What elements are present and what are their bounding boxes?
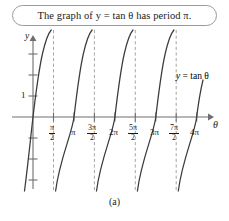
fraction-3pi-over-2: 3π 2 (87, 124, 97, 142)
x-tick-label-pi-over-2: π 2 (49, 124, 55, 142)
y-tick-label-1: 1 (21, 91, 26, 100)
tan-branch-3pi (137, 30, 174, 191)
fraction-denominator: 2 (87, 134, 97, 143)
asymptote-group (54, 30, 177, 191)
plot-area: y θ 1 π 2 π 3π 2 2π 5π 2 3π (0, 28, 229, 193)
curve-function-label: y = tan θ (176, 71, 209, 81)
axes-group (12, 40, 209, 189)
function-label-expression: tan θ (190, 71, 209, 81)
plot-svg (0, 28, 229, 193)
tan-branch-pi (56, 30, 93, 191)
fraction-5pi-over-2: 5π 2 (128, 124, 138, 142)
caption-box: The graph of y = tan θ has period π. (12, 5, 217, 26)
x-axis-label: θ (213, 120, 218, 130)
fraction-7pi-over-2: 7π 2 (169, 124, 179, 142)
x-tick-label-2pi: 2π (109, 128, 118, 137)
caption-text: The graph of y = tan θ has period π. (38, 10, 192, 21)
subcaption: (a) (0, 196, 229, 207)
fraction-denominator: 2 (169, 134, 179, 143)
tangent-graph-figure: The graph of y = tan θ has period π. (0, 0, 229, 221)
fraction-denominator: 2 (49, 134, 55, 143)
fraction-denominator: 2 (128, 134, 138, 143)
x-tick-label-3pi: 3π (150, 128, 159, 137)
tan-branch-2pi (97, 30, 134, 191)
y-axis-label: y (25, 32, 29, 42)
x-tick-label-5pi-over-2: 5π 2 (128, 124, 138, 142)
function-label-y: y (176, 71, 180, 81)
x-tick-label-3pi-over-2: 3π 2 (87, 124, 97, 142)
x-tick-label-4pi: 4π (190, 128, 199, 137)
x-tick-label-7pi-over-2: 7π 2 (169, 124, 179, 142)
function-label-equals: = (183, 71, 188, 81)
x-tick-label-pi: π (71, 128, 76, 137)
fraction-pi-over-2: π 2 (49, 124, 55, 142)
